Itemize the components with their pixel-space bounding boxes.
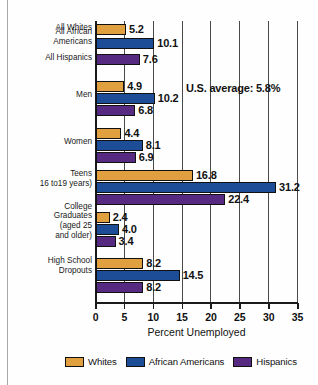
bar-value-label: 8.2	[146, 258, 161, 269]
x-tick-30	[268, 303, 270, 309]
plot-area: 5.210.17.64.910.26.84.48.16.916.831.222.…	[95, 21, 297, 303]
category-label-line: All Hispanics	[4, 53, 92, 63]
bar-value-label: 22.4	[228, 194, 249, 205]
bar	[96, 224, 119, 235]
bar-value-label: 4.0	[122, 224, 137, 235]
legend-item-h: Hispanics	[233, 356, 297, 367]
us-average-annotation: U.S. average: 5.8%	[186, 82, 280, 94]
bar	[96, 93, 155, 104]
category-label: Teens16 to19 years)	[4, 169, 92, 188]
x-tick-0	[95, 303, 97, 309]
bar-value-label: 31.2	[279, 182, 300, 193]
category-label: CollegeGraduates(aged 25and older)	[4, 202, 92, 240]
bar-value-label: 7.6	[143, 54, 158, 65]
bar-value-label: 14.5	[183, 270, 204, 281]
bar-value-label: 3.4	[119, 236, 134, 247]
category-label-line: Americans	[4, 37, 92, 47]
legend-swatch-h	[233, 357, 252, 367]
bar-value-label: 10.1	[157, 38, 178, 49]
bar	[96, 170, 193, 181]
x-tick-label-0: 0	[84, 311, 108, 323]
legend-label-aa: African Americans	[149, 356, 225, 367]
category-axis-labels: All WhitesAll AfricanAmericansAll Hispan…	[0, 0, 92, 385]
bar-value-label: 8.1	[146, 140, 161, 151]
x-tick-label-10: 10	[141, 311, 165, 323]
x-axis-title: Percent Unemployed	[95, 326, 298, 338]
category-label-line: Graduates	[4, 211, 92, 221]
category-label: All AfricanAmericans	[4, 27, 92, 46]
category-label-line: Dropouts	[4, 266, 92, 276]
legend-label-h: Hispanics	[256, 356, 297, 367]
bar-value-label: 2.4	[113, 212, 128, 223]
category-label-line: College	[4, 202, 92, 212]
bar	[96, 282, 143, 293]
legend: WhitesAfrican AmericansHispanics	[56, 356, 306, 367]
legend-item-aa: African Americans	[126, 356, 225, 367]
legend-label-w: Whites	[88, 356, 117, 367]
bar-value-label: 4.4	[124, 128, 139, 139]
bar	[96, 105, 135, 116]
gridline-35	[297, 21, 298, 303]
category-label-line: Men	[4, 90, 92, 100]
category-label-line: Teens	[4, 169, 92, 179]
category-label-line: Women	[4, 137, 92, 147]
x-tick-10	[153, 303, 155, 309]
bar	[96, 194, 225, 205]
legend-swatch-aa	[126, 357, 145, 367]
bar	[96, 258, 143, 269]
x-tick-label-15: 15	[170, 311, 194, 323]
bar-value-label: 10.2	[158, 93, 179, 104]
chart-figure: All WhitesAll AfricanAmericansAll Hispan…	[0, 0, 318, 385]
category-label-line: 16 to19 years)	[4, 179, 92, 189]
x-tick-25	[239, 303, 241, 309]
x-tick-20	[210, 303, 212, 309]
bar	[96, 81, 124, 92]
bar	[96, 212, 110, 223]
bar	[96, 182, 276, 193]
bar	[96, 152, 136, 163]
category-label-line: High School	[4, 256, 92, 266]
category-label: High SchoolDropouts	[4, 256, 92, 275]
category-label: Men	[4, 90, 92, 100]
x-tick-label-5: 5	[112, 311, 136, 323]
x-tick-35	[297, 303, 299, 309]
gridline-30	[268, 21, 269, 303]
bar	[96, 236, 116, 247]
bar-value-label: 4.9	[127, 81, 142, 92]
bar-value-label: 6.9	[139, 152, 154, 163]
bar	[96, 128, 121, 139]
x-tick-label-30: 30	[257, 311, 281, 323]
x-tick-label-25: 25	[228, 311, 252, 323]
category-label-line: and older)	[4, 231, 92, 241]
bar-value-label: 6.8	[138, 105, 153, 116]
bar	[96, 54, 140, 65]
category-label-line: (aged 25	[4, 221, 92, 231]
x-tick-label-20: 20	[199, 311, 223, 323]
x-tick-15	[182, 303, 184, 309]
category-label-line: All African	[4, 27, 92, 37]
legend-swatch-w	[65, 357, 84, 367]
bar	[96, 24, 126, 35]
category-label: All Hispanics	[4, 53, 92, 63]
bar-value-label: 5.2	[129, 24, 144, 35]
category-label: Women	[4, 137, 92, 147]
bar	[96, 140, 143, 151]
bar-value-label: 8.2	[146, 282, 161, 293]
gridline-20	[210, 21, 211, 303]
x-tick-label-35: 35	[286, 311, 310, 323]
gridline-25	[239, 21, 240, 303]
bar	[96, 270, 180, 281]
legend-item-w: Whites	[65, 356, 117, 367]
x-tick-5	[124, 303, 126, 309]
bar	[96, 38, 154, 49]
gridline-15	[182, 21, 183, 303]
bar-value-label: 16.8	[196, 170, 217, 181]
